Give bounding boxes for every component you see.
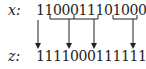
- bracket-3: [113, 15, 137, 19]
- z-bitstring: 11110001111110: [36, 48, 146, 64]
- bracket-2: [74, 15, 98, 19]
- z-label: z:: [8, 48, 20, 64]
- bracket-1: [50, 15, 74, 19]
